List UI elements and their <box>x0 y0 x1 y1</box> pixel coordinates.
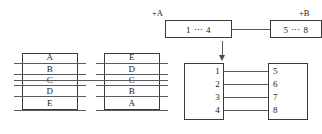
source-cell-1: B <box>22 64 78 74</box>
top-left-box-text: 1 ⋯ 4 <box>166 25 231 35</box>
down-arrow-icon <box>219 55 225 61</box>
top-right-box-text: 5 ⋯ 8 <box>271 25 321 35</box>
bottom-left-item-2: 3 <box>184 92 224 102</box>
label-plus-a: +A <box>152 9 163 18</box>
bottom-link-3 <box>224 97 268 98</box>
target-rule-4 <box>96 96 168 97</box>
bottom-left-item-3: 4 <box>184 105 224 115</box>
top-boxes-connector <box>232 29 270 30</box>
bottom-left-item-0: 1 <box>184 66 224 76</box>
bottom-right-item-1: 6 <box>268 79 308 89</box>
bottom-right-item-2: 7 <box>268 92 308 102</box>
source-cell-4: E <box>22 98 78 108</box>
bottom-right-item-0: 5 <box>268 66 308 76</box>
label-plus-b: +B <box>299 9 309 18</box>
target-cell-3: B <box>104 86 160 96</box>
top-left-box: 1 ⋯ 4 <box>165 20 232 38</box>
bottom-right-item-3: 8 <box>268 105 308 115</box>
target-cell-4: A <box>104 98 160 108</box>
source-cell-0: A <box>22 52 78 62</box>
bottom-link-4 <box>224 110 268 111</box>
bottom-left-item-1: 2 <box>184 79 224 89</box>
source-rule-5 <box>14 110 86 111</box>
top-right-box: 5 ⋯ 8 <box>270 20 322 38</box>
bottom-link-1 <box>224 71 268 72</box>
source-rule-4 <box>14 96 86 97</box>
bottom-link-2 <box>224 84 268 85</box>
target-rule-5 <box>96 110 168 111</box>
target-cell-1: D <box>104 64 160 74</box>
source-cell-3: D <box>22 86 78 96</box>
stack-connector-line <box>14 80 168 81</box>
target-cell-0: E <box>104 52 160 62</box>
